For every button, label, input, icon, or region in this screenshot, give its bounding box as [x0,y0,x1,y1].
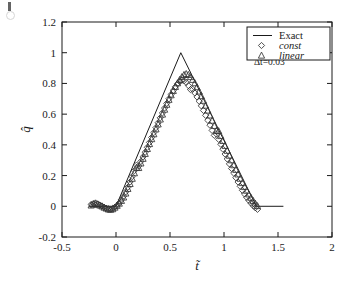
x-tick-label: 2 [329,241,335,253]
y-tick-label: 0.2 [42,170,56,182]
chart-svg: -0.500.511.52-0.200.20.40.60.811.2t̃q̂Δt… [0,0,353,293]
x-axis-title: t̃ [195,258,201,273]
x-tick-label: 0.5 [163,241,177,253]
y-tick-label: 0.8 [42,77,56,89]
y-tick-label: -0.2 [39,231,56,243]
x-tick-label: 1.5 [271,241,285,253]
data-marker-triangle [168,92,174,98]
x-tick-label: 0 [113,241,119,253]
scan-artifact [8,2,11,11]
legend-label-linear: linear [279,50,305,61]
y-tick-label: 0.6 [42,108,56,120]
y-axis-title: q̂ [18,126,33,133]
y-tick-label: 0 [51,200,57,212]
y-tick-label: 1 [51,47,57,59]
y-tick-label: 1.2 [42,16,56,28]
series-linear [88,71,261,213]
chart-figure: -0.500.511.52-0.200.20.40.60.811.2t̃q̂Δt… [0,0,353,293]
y-tick-label: 0.4 [42,139,56,151]
x-tick-label: 1 [221,241,227,253]
